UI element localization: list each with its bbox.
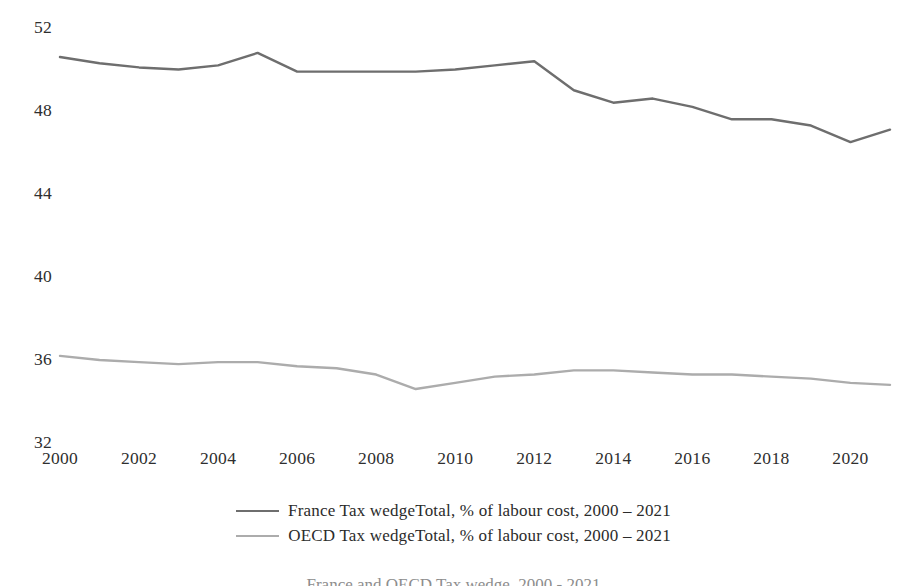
legend-item-label: OECD Tax wedgeTotal, % of labour cost, 2… [288,526,671,546]
legend-item-oecd[interactable]: OECD Tax wedgeTotal, % of labour cost, 2… [236,525,671,547]
figure-caption-text: France and OECD Tax wedge, 2000 - 2021 [0,575,907,586]
x-tick-label: 2010 [437,448,473,468]
x-tick-label: 2008 [358,448,394,468]
legend-item-france[interactable]: France Tax wedgeTotal, % of labour cost,… [236,500,671,522]
plot-svg [60,28,890,443]
series-line-france [60,53,890,142]
legend-item-label: France Tax wedgeTotal, % of labour cost,… [288,501,671,521]
legend-line-swatch [236,535,279,537]
x-axis: 2000200220042006200820102012201420162018… [60,448,890,474]
x-tick-label: 2004 [200,448,236,468]
x-tick-label: 2012 [516,448,552,468]
chart-legend: France Tax wedgeTotal, % of labour cost,… [0,500,907,547]
x-tick-label: 2018 [753,448,789,468]
tax-wedge-line-chart: 323640444852 200020022004200620082010201… [0,0,907,586]
plot-area [60,28,890,443]
x-tick-label: 2006 [279,448,315,468]
x-tick-label: 2000 [42,448,78,468]
y-tick-label: 48 [34,102,52,120]
x-tick-label: 2016 [674,448,710,468]
y-tick-label: 52 [34,19,52,37]
y-tick-label: 44 [34,185,52,203]
x-tick-label: 2014 [595,448,631,468]
legend-line-swatch [236,510,279,512]
y-tick-label: 36 [34,351,52,369]
figure-caption: France and OECD Tax wedge, 2000 - 2021 [0,575,907,586]
y-tick-label: 40 [34,268,52,286]
x-tick-label: 2020 [832,448,868,468]
x-tick-label: 2002 [121,448,157,468]
y-axis: 323640444852 [0,0,60,460]
series-line-oecd [60,356,890,389]
